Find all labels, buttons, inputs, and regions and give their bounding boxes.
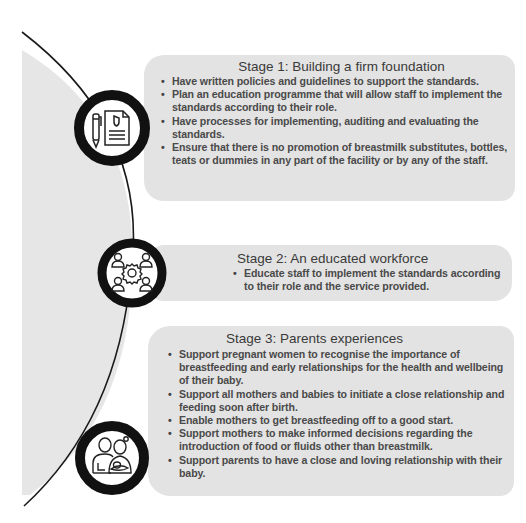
stage-2-bullet: Educate staff to implement the standards…: [230, 267, 512, 293]
stage-3-bullet: Enable mothers to get breastfeeding off …: [165, 414, 514, 427]
stage-2-bullets: Educate staff to implement the standards…: [230, 267, 512, 293]
stage-1-title: Stage 1: Building a firm foundation: [144, 59, 515, 74]
stage-1-panel: Stage 1: Building a firm foundation Have…: [144, 55, 515, 201]
document-pen-icon: [70, 86, 154, 170]
stage-3-bullets: Support pregnant women to recognise the …: [165, 348, 514, 480]
stage-3-panel: Stage 3: Parents experiences Support pre…: [148, 326, 514, 496]
stage-1-bullet: Ensure that there is no promotion of bre…: [158, 141, 515, 167]
stage-3-title: Stage 3: Parents experiences: [148, 326, 514, 346]
stage-3-bullet: Support pregnant women to recognise the …: [165, 348, 514, 388]
stage-1-bullet: Have processes for implementing, auditin…: [158, 115, 515, 141]
parents-baby-icon: [71, 417, 153, 499]
stage-3-bullet: Support mothers to make informed decisio…: [165, 427, 514, 453]
stage-2-panel: Stage 2: An educated workforce Educate s…: [150, 245, 512, 301]
team-gear-icon: [94, 235, 170, 311]
stage-1-bullet: Plan an education programme that will al…: [158, 88, 515, 114]
stage-1-bullets: Have written policies and guidelines to …: [158, 75, 515, 167]
stage-2-title: Stage 2: An educated workforce: [150, 245, 512, 266]
stage-3-bullet: Support parents to have a close and lovi…: [165, 454, 514, 480]
stage-1-bullet: Have written policies and guidelines to …: [158, 75, 515, 88]
stage-3-bullet: Support all mothers and babies to initia…: [165, 388, 514, 414]
